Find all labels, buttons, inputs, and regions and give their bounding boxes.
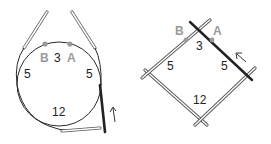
cable-right: [95, 48, 101, 85]
left-count-label: 5: [167, 59, 174, 73]
knitting-diagram-canvas: B 3 A 5 5 12 B 3: [0, 0, 271, 144]
marker-b-dot: [42, 41, 47, 46]
bottom-count-label: 12: [193, 93, 207, 107]
top-count-label: 3: [54, 51, 61, 65]
right-count-label: 5: [86, 67, 93, 81]
marker-a-label: A: [67, 51, 76, 65]
bottom-count-label: 12: [52, 105, 66, 119]
circular-needle-diagram: B 3 A 5 5 12: [16, 12, 116, 132]
marker-b-dot: [184, 38, 189, 43]
double-pointed-needles-diagram: B 3 A 5 5 12: [142, 20, 255, 125]
left-count-label: 5: [24, 67, 31, 81]
marker-b-label: B: [40, 51, 49, 65]
arrow-up-icon: [110, 107, 116, 122]
marker-b-label: B: [175, 24, 184, 38]
top-count-label: 3: [196, 39, 203, 53]
marker-a-dot: [67, 41, 72, 46]
arrow-up-left-icon: [236, 53, 246, 62]
marker-a-label: A: [213, 24, 222, 38]
needle-bottom: [62, 128, 100, 131]
needle-tip-right: [72, 12, 95, 48]
active-needle: [100, 85, 105, 132]
right-count-label: 5: [221, 59, 228, 73]
marker-a-dot: [210, 38, 215, 43]
